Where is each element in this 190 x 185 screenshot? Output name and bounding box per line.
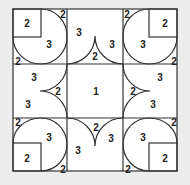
region-label-top-mid-right: 3 — [109, 39, 115, 50]
region-label-bl-corner-bottom: 2 — [60, 164, 66, 175]
region-label-mid-right-top: 3 — [157, 72, 163, 83]
region-label-tr-corner-top: 2 — [124, 9, 130, 20]
region-label-mid-left-bottom: 3 — [25, 99, 31, 110]
region-label-mid-right-bottom: 3 — [150, 99, 156, 110]
region-label-mid-left-top: 3 — [31, 72, 37, 83]
region-label-br-corner-bottom: 2 — [125, 164, 131, 175]
region-label-top-mid-left: 3 — [76, 27, 82, 38]
region-label-bl-corner-top: 2 — [15, 117, 21, 128]
region-label-tr-square: 2 — [162, 18, 168, 29]
region-label-tl-square: 2 — [24, 18, 30, 29]
region-label-br-big: 3 — [140, 132, 146, 143]
region-label-mid-right-center: 2 — [130, 86, 136, 97]
region-label-bl-square: 2 — [24, 153, 30, 164]
region-label-bottom-mid-right: 3 — [108, 133, 114, 144]
region-label-tl-corner-bottom: 2 — [15, 56, 21, 67]
region-label-center: 1 — [93, 86, 99, 97]
region-label-mid-left-center: 2 — [55, 86, 61, 97]
region-label-bottom-mid-left: 3 — [75, 145, 81, 156]
region-label-br-square: 2 — [162, 153, 168, 164]
region-label-bottom-mid-center: 2 — [93, 122, 99, 133]
region-label-top-mid-center: 2 — [92, 51, 98, 62]
region-label-tl-corner-top: 2 — [60, 9, 66, 20]
region-label-bl-big: 3 — [46, 132, 52, 143]
region-label-tr-corner-bottom: 2 — [171, 56, 177, 67]
puzzle-diagram: 23223232232323123323222332322 — [0, 0, 190, 185]
region-label-tl-big: 3 — [46, 39, 52, 50]
region-label-tr-big: 3 — [140, 39, 146, 50]
region-label-br-corner-top: 2 — [171, 117, 177, 128]
